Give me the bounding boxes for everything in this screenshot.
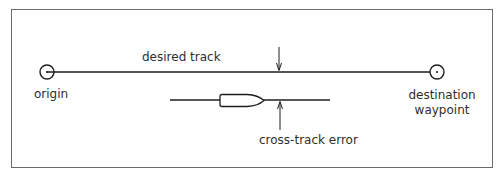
destination-label-line1: destination bbox=[400, 88, 484, 102]
boat-icon bbox=[220, 95, 264, 107]
cross-track-error-label: cross-track error bbox=[259, 133, 358, 147]
destination-marker-icon bbox=[430, 65, 444, 79]
destination-label-line2: waypoint bbox=[400, 103, 484, 117]
origin-label: origin bbox=[34, 87, 68, 101]
arrow-down-icon bbox=[277, 47, 282, 71]
desired-track-label: desired track bbox=[142, 50, 221, 64]
arrow-up-icon bbox=[278, 102, 283, 131]
